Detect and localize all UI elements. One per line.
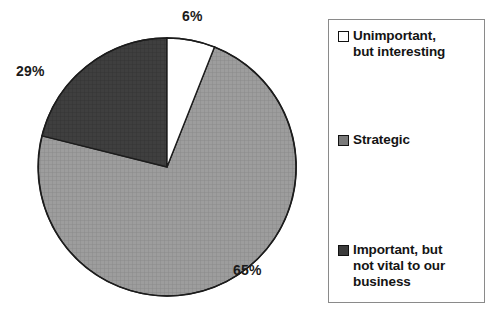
pie-label-strategic: 29% — [16, 63, 45, 79]
legend: Unimportant,but interesting Strategic Im… — [328, 19, 485, 303]
legend-item-label-line1: Unimportant, — [353, 28, 436, 43]
legend-item-label-line1: Strategic — [353, 132, 410, 147]
legend-item-unimportant-interesting[interactable]: Unimportant,but interesting — [338, 28, 483, 60]
legend-item-label-line2: not vital to our — [353, 258, 445, 273]
pie-label-important-not-vital: 65% — [233, 262, 262, 278]
pie-chart-plot-area — [0, 0, 318, 318]
pie-chart-svg — [0, 0, 318, 318]
legend-item-important-not-vital[interactable]: Important, butnot vital to ourbusiness — [338, 242, 483, 290]
legend-item-label: Strategic — [353, 132, 410, 148]
legend-item-label: Important, butnot vital to ourbusiness — [353, 242, 445, 290]
legend-item-strategic[interactable]: Strategic — [338, 132, 483, 148]
legend-item-label-line3: business — [353, 274, 411, 289]
legend-item-label-line2: but interesting — [353, 44, 445, 59]
pie-label-unimportant-interesting: 6% — [182, 8, 203, 24]
legend-swatch-icon — [338, 135, 349, 146]
legend-swatch-icon — [338, 31, 349, 42]
legend-item-label: Unimportant,but interesting — [353, 28, 445, 60]
legend-item-label-line1: Important, but — [353, 242, 442, 257]
pie-chart-figure: 6% 29% 65% Unimportant,but interesting S… — [0, 0, 501, 318]
legend-swatch-icon — [338, 245, 349, 256]
